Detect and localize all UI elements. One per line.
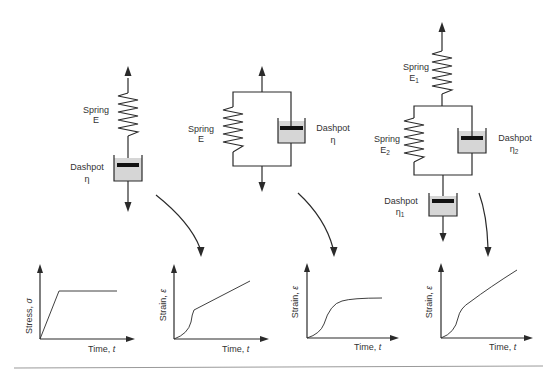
x-axis-label: Time, t [222, 344, 250, 354]
strain-curve [441, 270, 517, 338]
curved-arrow-kelvin [298, 193, 333, 248]
x-axis-label: Time, t [489, 342, 517, 352]
spring-icon [223, 107, 243, 152]
dashpot-eta2-label: Dashpot [498, 133, 532, 143]
y-axis-label: Stress, σ [24, 297, 34, 334]
spring-icon [118, 93, 138, 136]
kelvin-voigt-model: Spring E Dashpot η [188, 66, 350, 192]
divider-rule [14, 366, 543, 368]
piston-icon [461, 136, 483, 140]
x-axis-label: Time, t [88, 344, 116, 354]
arrow-up-icon [171, 264, 177, 273]
dashpot-eta2-symbol: η2 [510, 144, 519, 155]
arrow-down-icon [259, 182, 266, 192]
arrow-right-icon [390, 335, 399, 341]
arrow-up-icon [125, 66, 132, 76]
spring-e1-symbol: E1 [409, 73, 419, 84]
spring-e2-symbol: E2 [380, 145, 390, 156]
dashpot-fluid [114, 158, 142, 181]
viscoelastic-models-diagram: Spring E Dashpot η Spring E Dashpot η [0, 0, 557, 377]
arrow-up-icon [304, 263, 310, 272]
arrow-up-icon [439, 22, 446, 32]
dashpot-eta1-label: Dashpot [384, 196, 418, 206]
spring-label: Spring [83, 105, 109, 115]
maxwell-model: Spring E Dashpot η [70, 66, 142, 212]
spring-e1-label: Spring [403, 62, 429, 72]
arrow-down-icon [440, 233, 447, 242]
arrow-right-icon [260, 336, 269, 342]
arrow-down-icon [125, 202, 132, 212]
y-axis-label: Strain, ε [158, 288, 168, 322]
curved-arrow-burgers [479, 193, 488, 248]
dashpot-eta1-symbol: η1 [396, 207, 405, 218]
spring-e2-label: Spring [374, 134, 400, 144]
spring-e1-icon [432, 51, 452, 94]
strain-curve [174, 281, 250, 339]
burgers-model: Spring E1 Spring E2 Dashpot η2 Dashpot η… [374, 22, 532, 242]
spring-symbol: E [198, 134, 204, 144]
arrow-head-icon [197, 247, 205, 257]
stress-curve [40, 291, 117, 339]
piston-icon [117, 163, 139, 167]
strain-curve [307, 298, 382, 338]
dashpot-label: Dashpot [316, 123, 350, 133]
y-axis-label: Strain, ε [290, 285, 300, 319]
arrow-up-icon [438, 263, 444, 272]
graph-applied-stress: Stress, σ Time, t [24, 264, 135, 354]
graph-burgers-strain: Strain, ε Time, t [424, 263, 533, 352]
arrow-up-icon [37, 264, 43, 273]
graph-kelvin-strain: Strain, ε Time, t [290, 263, 399, 352]
dashpot-label: Dashpot [70, 162, 104, 172]
arrow-up-icon [259, 66, 266, 76]
arrow-head-icon [485, 247, 492, 257]
y-axis-label: Strain, ε [424, 285, 434, 319]
spring-symbol: E [93, 115, 99, 125]
graph-maxwell-strain: Strain, ε Time, t [158, 264, 269, 354]
curved-arrow-maxwell [156, 195, 200, 248]
arrow-head-icon [330, 247, 338, 257]
arrow-right-icon [524, 335, 533, 341]
dashpot-symbol: η [84, 174, 89, 184]
spring-label: Spring [188, 124, 214, 134]
bottom-frame [233, 141, 291, 166]
piston-icon [432, 199, 454, 203]
arrow-right-icon [126, 336, 135, 342]
spring-e2-icon [404, 118, 424, 162]
dashpot-symbol: η [330, 135, 335, 145]
x-axis-label: Time, t [354, 342, 382, 352]
piston-icon [280, 126, 303, 130]
